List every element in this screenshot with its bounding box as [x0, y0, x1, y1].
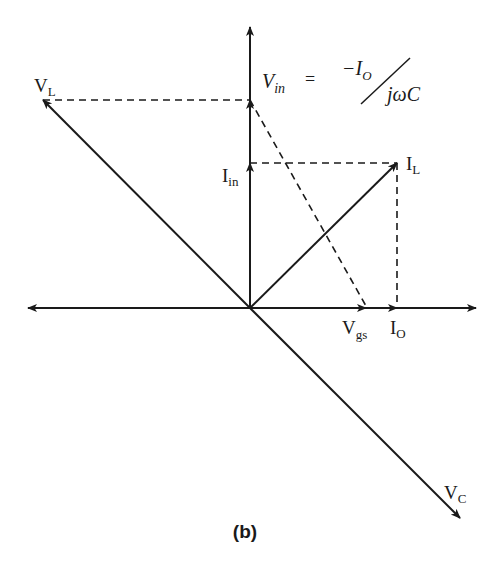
label-vc: VC [444, 482, 466, 506]
phasor-vl [43, 100, 250, 308]
phasor-il [250, 163, 397, 308]
label-vgs: Vgs [342, 317, 367, 342]
label-denominator: jωC [384, 83, 421, 106]
label-vin: Vin [262, 70, 285, 96]
label-equals: = [305, 69, 315, 89]
dashed-vin-to-vgs [250, 100, 366, 306]
figure-caption: (b) [233, 521, 257, 542]
label-il: IL [406, 153, 420, 177]
label-numerator: −IO [342, 57, 372, 83]
label-io: IO [390, 317, 406, 341]
label-vl: VL [34, 75, 56, 99]
label-iin: Iin [222, 165, 239, 189]
phasor-diagram: VL Vin = −IO jωC Iin IL Vgs IO VC (b) [0, 0, 499, 573]
